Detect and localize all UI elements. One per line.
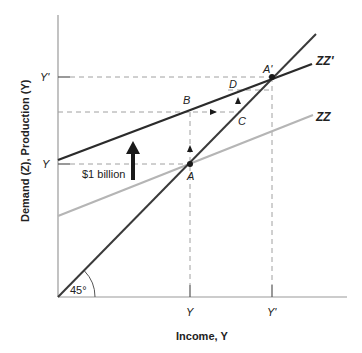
y-tick-lower-label: Y [42,158,50,170]
point-b-label: B [183,94,190,106]
point-a [187,161,193,167]
keynesian-cross-diagram: Y' Y Y Y' Income, Y Demand (Z), Producti… [0,0,362,353]
zz-prime-label: ZZ' [315,54,335,68]
zz-line [58,115,313,216]
point-c-label: C [238,115,246,127]
shift-arrow-icon [126,141,140,180]
arrow-up-icon [235,97,241,104]
point-a-label: A [186,170,194,182]
point-d-label: D [229,78,237,90]
angle-label: 45° [70,284,87,296]
arrow-right-icon [210,109,217,115]
arrow-up-icon [187,145,193,152]
y-axis-label: Demand (Z), Production (Y) [19,79,31,222]
line-45-degree [58,34,316,297]
zz-label: ZZ [315,110,331,124]
y-tick-upper-label: Y' [40,71,50,83]
point-a-prime-label: A' [262,63,273,75]
x-axis-label: Income, Y [176,330,228,342]
x-tick-right-label: Y' [267,306,277,318]
x-tick-left-label: Y [186,306,194,318]
shift-label: $1 billion [82,168,125,180]
dashed-guides [58,77,272,285]
